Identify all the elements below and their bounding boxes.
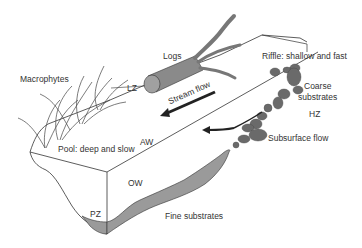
macrophytes-label: Macrophytes bbox=[20, 75, 69, 84]
aw-label: AW bbox=[140, 138, 153, 147]
riffle-pointer bbox=[262, 35, 307, 52]
pool-label: Pool: deep and slow bbox=[58, 145, 135, 154]
hz-label: HZ bbox=[309, 110, 320, 119]
riffle-label: Riffle: shallow and fast bbox=[262, 52, 347, 61]
coarse-substrates-label-line2: substrates bbox=[298, 93, 337, 102]
fine-substrates-label: Fine substrates bbox=[165, 212, 223, 221]
coarse-substrates-label-line1: Coarse bbox=[304, 82, 331, 91]
subsurface-flow-label: Subsurface flow bbox=[268, 134, 328, 143]
logs-illustration bbox=[144, 16, 240, 93]
logs-label: Logs bbox=[163, 52, 181, 61]
lz-label: LZ bbox=[127, 84, 137, 93]
fine-substrates bbox=[107, 150, 230, 234]
ow-label: OW bbox=[128, 179, 143, 188]
pz-label: PZ bbox=[90, 210, 101, 219]
